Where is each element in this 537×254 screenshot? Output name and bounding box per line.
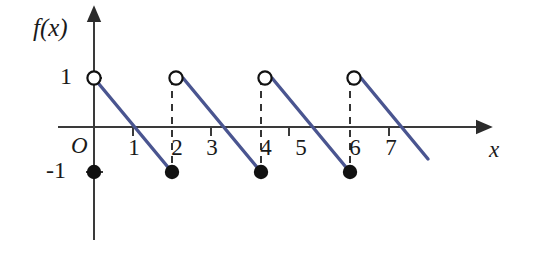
x-tick-label-7: 7 <box>378 136 404 159</box>
filled-dot-x4 <box>254 165 268 179</box>
x-tick-label-3: 3 <box>199 136 225 159</box>
y-tick-label-neg-1: -1 <box>46 158 66 182</box>
filled-dot-x2 <box>165 165 179 179</box>
closed-endpoint-markers <box>87 165 357 179</box>
x-axis-label: x <box>489 138 499 161</box>
y-tick-label-1: 1 <box>60 64 72 88</box>
open-endpoint-markers <box>87 71 360 84</box>
filled-dot-x6 <box>343 165 357 179</box>
x-tick-label-1: 1 <box>121 136 147 159</box>
open-circle-x2 <box>169 71 182 84</box>
open-circle-x4 <box>258 71 271 84</box>
open-circle-x0 <box>87 71 100 84</box>
open-circle-x6 <box>347 71 360 84</box>
origin-label: O <box>71 134 88 157</box>
filled-dot-x0 <box>87 165 101 179</box>
plot-canvas <box>0 0 537 254</box>
x-tick-label-4: 4 <box>253 136 279 159</box>
y-axis-label: f(x) <box>33 15 68 40</box>
x-tick-label-5: 5 <box>288 136 314 159</box>
function-graph-figure: f(x) x O 1 -1 1 2 3 4 5 6 7 <box>0 0 537 254</box>
x-tick-label-6: 6 <box>342 136 368 159</box>
x-tick-label-2: 2 <box>164 136 190 159</box>
